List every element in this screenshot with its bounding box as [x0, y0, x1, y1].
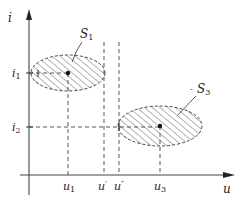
x-axis-arrow-icon [223, 172, 235, 178]
y-axis-arrow-icon [26, 9, 32, 20]
i2-label: i2 [12, 121, 21, 135]
x-axis-label: u [223, 182, 231, 196]
diagram-canvas: i u i1 i2 u1 u′ u″ u3 S1 S3 - [0, 0, 245, 201]
axes [20, 9, 235, 195]
u-prime-label: u′ [98, 179, 107, 193]
u-double-prime-label: u″ [114, 179, 124, 193]
u3-label: u3 [154, 180, 166, 194]
y-axis-label: i [8, 11, 12, 25]
s1-center-point [66, 71, 70, 75]
u1-label: u1 [63, 180, 75, 194]
i1-label: i1 [12, 67, 21, 81]
s3-label-mark: - [190, 85, 193, 94]
s3-label: S3 [197, 82, 210, 97]
s1-label: S1 [80, 27, 93, 42]
s3-center-point [158, 124, 162, 128]
